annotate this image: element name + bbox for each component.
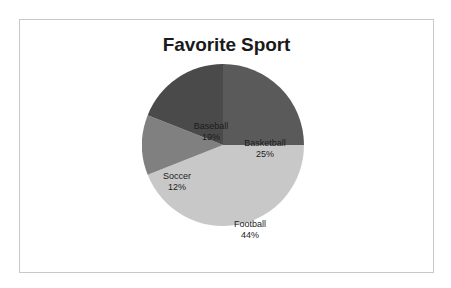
pie-slice-basketball[interactable] — [223, 64, 304, 145]
pie-slices — [142, 64, 304, 226]
chart-frame: Favorite Sport Basketball 25% Football 4… — [19, 19, 434, 273]
pie-label-football-percent: 44% — [217, 230, 283, 241]
pie-svg — [142, 64, 304, 226]
pie-chart — [142, 64, 304, 226]
chart-title: Favorite Sport — [20, 34, 433, 56]
